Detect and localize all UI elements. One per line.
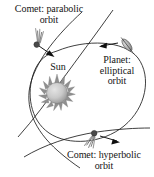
planet-icon <box>119 36 136 55</box>
orbit-diagram: Comet: parabolic orbit Planet: elliptica… <box>0 0 154 177</box>
arrow-icon-hyperbolic <box>100 136 120 145</box>
label-comet-parabolic: Comet: parabolic orbit <box>3 4 95 25</box>
label-sun: Sun <box>40 62 76 73</box>
label-planet-elliptical: Planet: elliptical orbit <box>86 55 148 87</box>
comet-icon-parabolic <box>34 29 44 48</box>
label-comet-hyperbolic: Comet: hyperbolic orbit <box>54 150 154 171</box>
